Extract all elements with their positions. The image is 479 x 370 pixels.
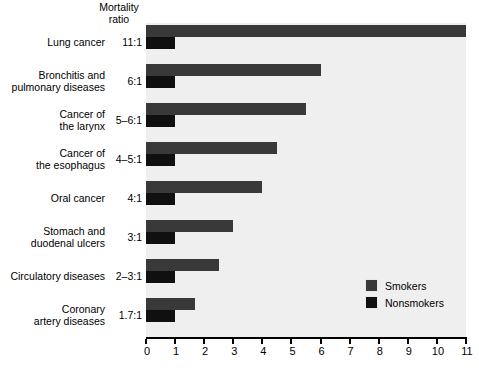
- mortality-ratio-bar-chart: Mortality ratio Lung cancer11:1Bronchiti…: [0, 0, 479, 370]
- bar-nonsmokers: [146, 76, 175, 88]
- mortality-ratio-value: 11:1: [112, 37, 142, 49]
- category-name: Oral cancer: [51, 193, 112, 205]
- x-axis-tick-label: 9: [397, 345, 421, 357]
- category-name: Lung cancer: [47, 37, 112, 49]
- x-axis-tick-label: 5: [280, 345, 304, 357]
- bar-nonsmokers: [146, 37, 175, 49]
- legend-label: Smokers: [378, 280, 426, 292]
- x-axis-line: [146, 337, 467, 339]
- category-name: Circulatory diseases: [10, 271, 112, 283]
- x-axis-tick-label: 4: [251, 345, 275, 357]
- mortality-ratio-value: 6:1: [112, 76, 142, 88]
- mortality-ratio-value: 1.7:1: [112, 310, 142, 322]
- category-label-row: Oral cancer4:1: [0, 179, 142, 218]
- category-name: Stomach and duodenal ulcers: [31, 226, 112, 249]
- bar-smokers: [146, 103, 306, 115]
- mortality-ratio-value: 4:1: [112, 193, 142, 205]
- x-axis-tick: [261, 339, 263, 344]
- bar-smokers: [146, 25, 466, 37]
- mortality-ratio-header-line1: Mortality: [96, 2, 142, 14]
- x-axis-tick: [174, 339, 176, 344]
- x-axis-tick: [203, 339, 205, 344]
- category-name: Cancer of the esophagus: [36, 148, 112, 171]
- category-label-row: Coronary artery diseases1.7:1: [0, 296, 142, 335]
- legend-item: Smokers: [365, 277, 444, 294]
- x-axis-tick: [349, 339, 351, 344]
- bar-nonsmokers: [146, 232, 175, 244]
- x-axis-tick-label: 6: [310, 345, 334, 357]
- x-axis-tick: [290, 339, 292, 344]
- x-axis-tick: [145, 339, 147, 344]
- mortality-ratio-value: 2–3:1: [112, 271, 142, 283]
- mortality-ratio-value: 5–6:1: [112, 115, 142, 127]
- category-label-row: Bronchitis and pulmonary diseases6:1: [0, 62, 142, 101]
- category-label-row: Cancer of the larynx5–6:1: [0, 101, 142, 140]
- x-axis-tick-label: 0: [135, 345, 159, 357]
- x-axis-tick: [465, 339, 467, 344]
- x-axis-tick: [407, 339, 409, 344]
- bar-smokers: [146, 259, 219, 271]
- legend-label: Nonsmokers: [378, 297, 444, 309]
- legend-swatch-nonsmokers: [365, 296, 378, 309]
- chart-legend: SmokersNonsmokers: [365, 277, 444, 311]
- x-axis-tick-label: 11: [455, 345, 479, 357]
- category-label-row: Circulatory diseases2–3:1: [0, 257, 142, 296]
- x-axis-tick-label: 1: [164, 345, 188, 357]
- x-axis-tick: [320, 339, 322, 344]
- category-name: Cancer of the larynx: [59, 109, 112, 132]
- x-axis-tick-label: 10: [426, 345, 450, 357]
- bar-nonsmokers: [146, 115, 175, 127]
- x-axis-tick-label: 2: [193, 345, 217, 357]
- bar-smokers: [146, 142, 277, 154]
- x-axis-tick-label: 8: [368, 345, 392, 357]
- bar-nonsmokers: [146, 310, 175, 322]
- bar-smokers: [146, 64, 321, 76]
- category-label-row: Cancer of the esophagus4–5:1: [0, 140, 142, 179]
- category-name: Coronary artery diseases: [34, 304, 112, 327]
- x-axis-tick: [378, 339, 380, 344]
- category-label-row: Stomach and duodenal ulcers3:1: [0, 218, 142, 257]
- mortality-ratio-column-header: Mortality ratio: [96, 2, 142, 25]
- bar-nonsmokers: [146, 271, 175, 283]
- legend-item: Nonsmokers: [365, 294, 444, 311]
- mortality-ratio-value: 3:1: [112, 232, 142, 244]
- bar-smokers: [146, 298, 195, 310]
- bar-smokers: [146, 220, 233, 232]
- bar-nonsmokers: [146, 154, 175, 166]
- legend-swatch-smokers: [365, 279, 378, 292]
- category-name: Bronchitis and pulmonary diseases: [12, 70, 112, 93]
- x-axis-tick: [436, 339, 438, 344]
- category-label-row: Lung cancer11:1: [0, 23, 142, 62]
- bar-nonsmokers: [146, 193, 175, 205]
- mortality-ratio-value: 4–5:1: [112, 154, 142, 166]
- x-axis-tick-label: 7: [339, 345, 363, 357]
- x-axis-tick-label: 3: [222, 345, 246, 357]
- x-axis-tick: [232, 339, 234, 344]
- bar-smokers: [146, 181, 262, 193]
